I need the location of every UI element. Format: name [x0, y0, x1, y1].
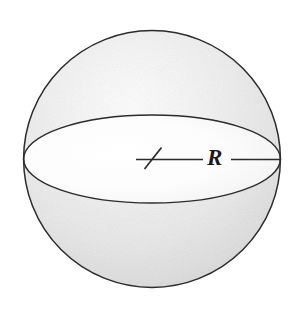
sphere-diagram: R: [0, 0, 296, 312]
sphere-illustration: [0, 0, 296, 312]
radius-label: R: [207, 146, 222, 169]
